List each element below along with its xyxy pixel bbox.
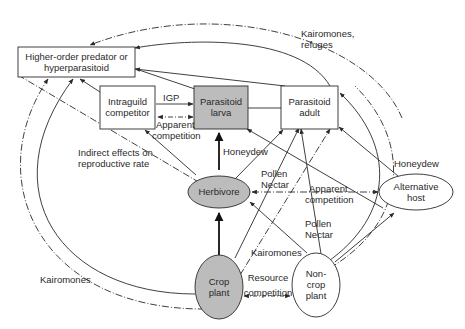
label-resource-competition: Resource competition — [243, 272, 293, 298]
althost-line1: Alternative — [379, 181, 453, 192]
higher-order-label: Higher-order predator or hyperparasitoid — [18, 51, 135, 73]
edge-intraguild-to-higher — [80, 79, 100, 92]
larva-line1: Parasitoid — [194, 96, 248, 107]
crop-plant-label: Crop plant — [195, 276, 243, 298]
apparent-2-line2: competition — [305, 194, 354, 205]
apparent-1-line2: competition — [152, 130, 201, 141]
pollen-1-line1: Pollen — [261, 168, 289, 179]
label-igp: IGP — [163, 92, 179, 103]
edge-kairomones-noncrop-herbivore — [250, 202, 307, 253]
label-pollen-nectar-1: Pollen Nectar — [261, 168, 289, 190]
herbivore-label: Herbivore — [188, 186, 250, 197]
crop-line2: plant — [195, 287, 243, 298]
kairomones-refuges-line2: refuges — [301, 39, 354, 50]
label-apparent-competition-1: Apparent competition — [156, 119, 201, 141]
intraguild-label: Intraguild competitor — [100, 96, 155, 118]
althost-line2: host — [379, 192, 453, 203]
intraguild-line2: competitor — [100, 107, 155, 118]
apparent-2-line1: Apparent — [305, 183, 354, 194]
label-kairomones-refuges: Kairomones, refuges — [301, 28, 354, 50]
parasitoid-larva-label: Parasitoid larva — [194, 96, 248, 118]
pollen-2-line1: Pollen — [305, 218, 333, 229]
resource-line1: Resource — [243, 272, 293, 283]
noncrop-line2: crop — [292, 279, 340, 290]
pollen-1-line2: Nectar — [261, 179, 289, 190]
label-apparent-competition-2: Apparent competition — [305, 183, 354, 205]
adult-line2: adult — [281, 107, 338, 118]
alternative-host-label: Alternative host — [379, 181, 453, 203]
edge-noncrop-arc-dashdot — [330, 86, 394, 268]
larva-line2: larva — [194, 107, 248, 118]
label-kairomones-bottom: Kairomones — [251, 247, 302, 258]
apparent-1-line1: Apparent — [156, 119, 201, 130]
edge-adult-to-higher-solid-2 — [135, 69, 285, 86]
indirect-line2: reproductive rate — [78, 158, 153, 169]
higher-order-line2: hyperparasitoid — [18, 62, 135, 73]
kairomones-refuges-line1: Kairomones, — [301, 28, 354, 39]
intraguild-line1: Intraguild — [100, 96, 155, 107]
pollen-2-line2: Nectar — [305, 229, 333, 240]
label-kairomones-left: Kairomones — [40, 274, 91, 285]
parasitoid-adult-label: Parasitoid adult — [281, 96, 338, 118]
edge-honeydew-althost-adult — [339, 127, 398, 176]
crop-line1: Crop — [195, 276, 243, 287]
noncrop-line3: plant — [292, 290, 340, 301]
indirect-line1: Indirect effects on — [78, 147, 153, 158]
noncrop-plant-label: Non- crop plant — [292, 268, 340, 301]
adult-line1: Parasitoid — [281, 96, 338, 107]
label-honeydew-1: Honeydew — [223, 146, 268, 157]
higher-order-line1: Higher-order predator or — [18, 51, 135, 62]
resource-line2: competition — [243, 287, 293, 298]
label-pollen-nectar-2: Pollen Nectar — [305, 218, 333, 240]
noncrop-line1: Non- — [292, 268, 340, 279]
label-honeydew-2: Honeydew — [394, 158, 439, 169]
edge-noncrop-to-althost — [335, 213, 394, 262]
label-indirect-effects: Indirect effects on reproductive rate — [78, 147, 153, 169]
